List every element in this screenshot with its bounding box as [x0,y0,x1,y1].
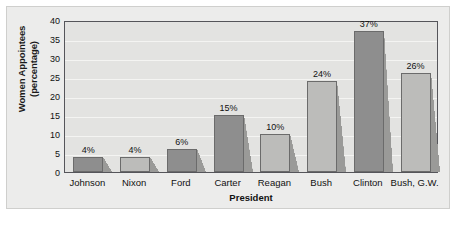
bar-shadow [431,73,440,172]
chart-figure: Women Appointees (percentage) 0510152025… [6,6,450,209]
bar-fill [120,157,150,172]
bar-fill [260,134,290,172]
bar-shadow [103,157,112,172]
bar-shadow [290,134,299,172]
y-axis-ticks: 0510152025303540 [36,21,60,173]
bar [120,157,150,172]
y-axis-tick-label: 40 [38,17,60,26]
bar-shadow [244,115,253,172]
bar-value-label: 10% [253,123,297,132]
y-axis-title-line1: Women Appointees [16,8,28,130]
bar [214,115,244,172]
x-axis-ticks: JohnsonNixonFordCarterReaganBushClintonB… [64,177,438,191]
bar [167,149,197,172]
x-axis-tick-label: Bush, G.W. [385,177,445,188]
bar-fill [307,81,337,172]
bar-fill [214,115,244,172]
bar [307,81,337,172]
y-axis-tick-label: 20 [38,93,60,102]
bar-shadow [384,31,393,172]
y-axis-tick-label: 10 [38,131,60,140]
bar [401,73,431,172]
bar [260,134,290,172]
bar-value-label: 26% [394,62,438,71]
y-axis-tick-label: 5 [38,150,60,159]
y-axis-tick-label: 25 [38,74,60,83]
bar-value-label: 37% [347,20,391,29]
bar-value-label: 4% [113,146,157,155]
y-axis-tick-label: 30 [38,55,60,64]
y-axis-tick-label: 35 [38,36,60,45]
bar-fill [73,157,103,172]
bar-fill [401,73,431,172]
bar-shadow [150,157,159,172]
bar-value-label: 24% [300,70,344,79]
bar-shadow [197,149,206,172]
bar-value-label: 6% [160,138,204,147]
plot-area: 4%4%6%15%10%24%37%26% [64,21,438,173]
bar-value-label: 4% [66,146,110,155]
bar-fill [167,149,197,172]
bar-shadow [337,81,346,172]
bar [354,31,384,172]
bar-value-label: 15% [207,104,251,113]
bar-fill [354,31,384,172]
x-axis-title: President [64,192,438,203]
bar [73,157,103,172]
y-axis-tick-label: 15 [38,112,60,121]
